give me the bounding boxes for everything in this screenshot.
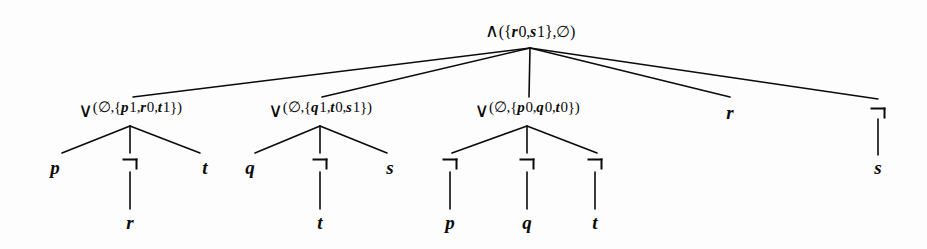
node-or-1-annotation: (∅,{p1,r0,t1}) (93, 99, 182, 115)
tree-edge (62, 126, 130, 153)
node-neg-t-leaf: t (317, 213, 322, 232)
tree-edge (529, 48, 530, 97)
or-operator-icon: ∨ (78, 98, 93, 122)
negation-icon (123, 159, 138, 170)
node-neg-r-leaf: r (126, 213, 133, 232)
node-or2-leaf-s: s (386, 158, 393, 177)
or-operator-icon: ∨ (474, 98, 489, 122)
tree-edge (452, 126, 527, 153)
tree-edge (530, 48, 878, 99)
node-or1-leaf-t: t (202, 158, 207, 177)
negation-icon (443, 159, 458, 170)
negation-icon (588, 159, 603, 170)
tree-edge (530, 48, 730, 97)
tree-edge (133, 48, 530, 97)
node-or-3-annotation: (∅,{p0,q0,t0}) (489, 99, 580, 115)
node-neg-t2-leaf: t (592, 213, 597, 232)
tree-edge (320, 126, 387, 153)
node-neg-s-leaf: s (874, 158, 881, 177)
and-operator-icon: ∧ (485, 19, 499, 41)
tree-edge (255, 126, 320, 153)
node-root-and: ∧({r0,s1},∅) (485, 21, 575, 40)
node-neg-q-leaf: q (522, 213, 532, 232)
node-neg-p-leaf: p (445, 213, 455, 232)
or-operator-icon: ∨ (268, 98, 283, 122)
node-or-3: ∨(∅,{p0,q0,t0}) (474, 100, 579, 120)
node-or1-leaf-p: p (50, 158, 60, 177)
node-root-leaf-r: r (726, 103, 733, 122)
node-or-2: ∨(∅,{q1,t0,s1}) (268, 100, 372, 120)
tree-edge (527, 126, 597, 153)
and-or-tree-figure: ∧({r0,s1},∅) ∨(∅,{p1,r0,t1}) ∨(∅,{q1,t0,… (0, 0, 927, 249)
negation-icon (313, 159, 328, 170)
node-or-1: ∨(∅,{p1,r0,t1}) (78, 100, 182, 120)
tree-edges (0, 0, 927, 249)
negation-icon (871, 108, 886, 119)
node-or-2-annotation: (∅,{q1,t0,s1}) (283, 99, 372, 115)
node-root-annotation: ({r0,s1},∅) (499, 23, 575, 40)
node-or2-leaf-q: q (245, 158, 255, 177)
tree-edge (130, 126, 200, 153)
tree-edge (322, 48, 530, 97)
negation-icon (520, 159, 535, 170)
